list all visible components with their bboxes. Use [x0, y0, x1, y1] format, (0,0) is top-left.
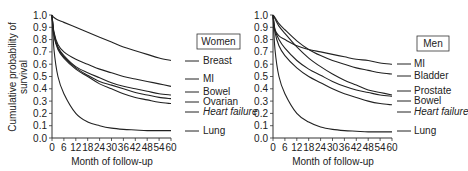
legend-item-mi: MI: [397, 58, 425, 69]
y-tick-label: 0.7: [33, 46, 47, 57]
x-tick-label: 42: [130, 142, 142, 153]
x-tick-label: 6: [61, 142, 67, 153]
y-tick-label: 0.3: [254, 96, 268, 107]
x-tick-label: 54: [154, 142, 166, 153]
legend-label: Lung: [414, 125, 436, 136]
legend-label: Bladder: [414, 70, 449, 81]
x-tick-label: 24: [94, 142, 106, 153]
x-tick-label: 42: [351, 142, 363, 153]
y-tick-label: 0.1: [33, 120, 47, 131]
legend-label: MI: [414, 58, 425, 69]
x-tick-label: 30: [327, 142, 339, 153]
men-x-axis-label: Month of follow-up: [292, 156, 374, 167]
axes: 0.00.10.20.30.40.50.60.70.80.91.00612182…: [33, 10, 177, 154]
legend-label: Heart failure: [203, 106, 258, 117]
x-tick-label: 60: [386, 142, 398, 153]
legend-label: Heart failure: [414, 106, 468, 117]
legend-item-mi: MI: [185, 73, 214, 84]
x-tick-label: 12: [291, 142, 303, 153]
x-tick-label: 18: [82, 142, 94, 153]
women-title: Women: [201, 36, 235, 47]
x-tick-label: 0: [270, 142, 276, 153]
women-title-box: Women: [197, 34, 240, 49]
y-tick-label: 1.0: [33, 10, 47, 21]
series-line-bladder: [273, 15, 392, 74]
y-tick-label: 0.7: [254, 46, 268, 57]
legend-item-lung: Lung: [397, 125, 436, 136]
x-tick-label: 24: [315, 142, 327, 153]
y-tick-label: 0.9: [254, 22, 268, 33]
x-tick-label: 48: [142, 142, 154, 153]
men-panel: 0.00.10.20.30.40.50.60.70.80.91.00612182…: [254, 10, 468, 154]
y-tick-label: 0.2: [33, 108, 47, 119]
legend-item-bowel: Bowel: [397, 95, 441, 106]
y-tick-label: 0.6: [254, 59, 268, 70]
y-tick-label: 0.5: [33, 71, 47, 82]
y-tick-label: 0.3: [33, 96, 47, 107]
series-line-bowel: [273, 15, 392, 96]
x-tick-label: 60: [165, 142, 177, 153]
x-tick-label: 36: [339, 142, 351, 153]
y-tick-label: 1.0: [254, 10, 268, 21]
x-tick-label: 0: [49, 142, 55, 153]
legend-label: Breast: [203, 55, 232, 66]
x-tick-label: 30: [106, 142, 118, 153]
y-axis-label-line1: Cumulative probability of: [7, 22, 18, 132]
x-tick-label: 48: [363, 142, 375, 153]
legend-item-heart-failure: Heart failure: [185, 106, 258, 117]
y-tick-label: 0.8: [254, 34, 268, 45]
men-title: Men: [423, 38, 442, 49]
y-tick-label: 0.2: [254, 108, 268, 119]
legend-item-bladder: Bladder: [397, 70, 449, 81]
y-tick-label: 0.4: [254, 83, 268, 94]
legend-item-lung: Lung: [185, 125, 225, 136]
y-tick-label: 0.8: [33, 34, 47, 45]
series-line-mi: [52, 15, 171, 86]
women-x-axis-label: Month of follow-up: [71, 156, 153, 167]
y-tick-label: 0.0: [33, 133, 47, 144]
legend-label: MI: [203, 73, 214, 84]
y-axis-label-line2: survival: [18, 60, 29, 94]
y-tick-label: 0.9: [33, 22, 47, 33]
men-title-box: Men: [417, 36, 449, 51]
series-line-heart-failure: [52, 15, 171, 104]
x-tick-label: 18: [303, 142, 315, 153]
y-tick-label: 0.4: [33, 83, 47, 94]
x-tick-label: 12: [70, 142, 82, 153]
series-line-breast: [52, 15, 171, 61]
x-tick-label: 36: [118, 142, 130, 153]
y-tick-label: 0.5: [254, 71, 268, 82]
survival-chart-figure: Cumulative probability of survival 0.00.…: [0, 0, 468, 171]
y-tick-label: 0.1: [254, 120, 268, 131]
legend-label: Lung: [203, 125, 225, 136]
legend-label: Bowel: [414, 95, 441, 106]
women-y-axis-label: Cumulative probability of survival: [7, 22, 29, 132]
x-tick-label: 6: [282, 142, 288, 153]
y-tick-label: 0.6: [33, 59, 47, 70]
legend-item-breast: Breast: [185, 55, 232, 66]
legend-item-heart-failure: Heart failure: [397, 106, 468, 117]
x-tick-label: 54: [375, 142, 387, 153]
women-panel: 0.00.10.20.30.40.50.60.70.80.91.00612182…: [33, 10, 258, 154]
y-tick-label: 0.0: [254, 133, 268, 144]
